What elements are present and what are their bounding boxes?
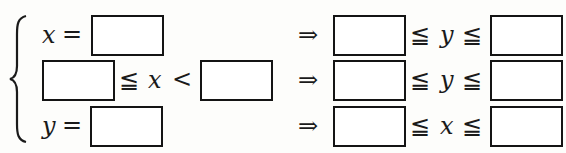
row1-range-leq-left: ≦ bbox=[410, 15, 430, 56]
row2-range-upper-box[interactable] bbox=[490, 60, 563, 101]
row3-answer-box[interactable] bbox=[90, 106, 163, 147]
row3-implies-arrow: ⇒ bbox=[298, 106, 318, 147]
row1-answer-box[interactable] bbox=[91, 15, 164, 56]
row3-range-leq-right: ≦ bbox=[462, 106, 482, 147]
row3-range-lower-box[interactable] bbox=[333, 106, 406, 147]
row3-range-variable: x bbox=[440, 106, 454, 147]
left-brace bbox=[8, 14, 30, 144]
row3-range-leq-left: ≦ bbox=[410, 106, 430, 147]
row2-leq: ≦ bbox=[119, 60, 139, 101]
row2-less-than: < bbox=[172, 59, 192, 100]
row3-equals: = bbox=[62, 105, 82, 146]
row2-implies-arrow: ⇒ bbox=[298, 60, 318, 101]
row1-range-upper-box[interactable] bbox=[490, 15, 563, 56]
row2-range-variable: y bbox=[440, 60, 454, 101]
row1-implies-arrow: ⇒ bbox=[298, 15, 318, 56]
row1-range-variable: y bbox=[440, 15, 454, 56]
row2-variable: x bbox=[148, 60, 162, 101]
row2-upper-bound-box[interactable] bbox=[200, 60, 273, 101]
row3-variable: y bbox=[42, 106, 56, 147]
row1-range-lower-box[interactable] bbox=[333, 15, 406, 56]
row1-equals: = bbox=[62, 14, 82, 55]
row1-range-leq-right: ≦ bbox=[462, 15, 482, 56]
row2-lower-bound-box[interactable] bbox=[42, 60, 115, 101]
row2-range-leq-left: ≦ bbox=[410, 60, 430, 101]
row2-range-leq-right: ≦ bbox=[462, 60, 482, 101]
row2-range-lower-box[interactable] bbox=[333, 60, 406, 101]
row3-range-upper-box[interactable] bbox=[490, 106, 563, 147]
row1-variable: x bbox=[42, 15, 56, 56]
